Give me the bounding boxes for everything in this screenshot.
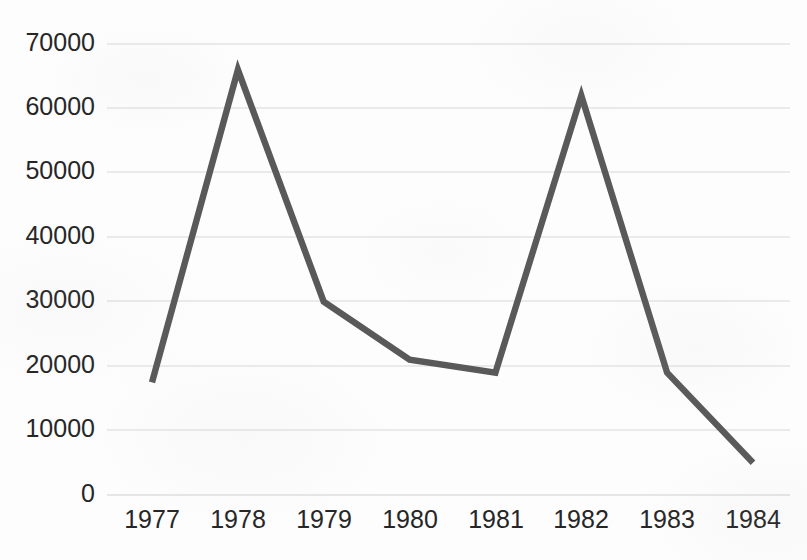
y-tick-label-0: 0 [81,479,95,507]
x-tick-label-1978: 1978 [210,505,266,533]
x-tick-label-1977: 1977 [124,505,180,533]
data-series-line [152,70,753,463]
gridlines [107,44,790,495]
y-tick-label-60000: 60000 [25,92,95,120]
x-tick-label-1979: 1979 [296,505,352,533]
y-tick-label-10000: 10000 [25,414,95,442]
x-axis-tick-labels: 1977 1978 1979 1980 1981 1982 1983 1984 [124,505,781,533]
x-tick-label-1983: 1983 [639,505,695,533]
y-tick-label-50000: 50000 [25,156,95,184]
y-tick-label-30000: 30000 [25,285,95,313]
x-tick-label-1981: 1981 [468,505,524,533]
y-axis-tick-labels: 70000 60000 50000 40000 30000 20000 1000… [25,28,95,507]
x-tick-label-1984: 1984 [725,505,781,533]
y-tick-label-20000: 20000 [25,350,95,378]
y-tick-label-40000: 40000 [25,221,95,249]
chart-canvas: 70000 60000 50000 40000 30000 20000 1000… [0,0,807,560]
y-tick-label-70000: 70000 [25,28,95,56]
line-chart: 70000 60000 50000 40000 30000 20000 1000… [0,0,807,560]
x-tick-label-1980: 1980 [382,505,438,533]
x-tick-label-1982: 1982 [553,505,609,533]
